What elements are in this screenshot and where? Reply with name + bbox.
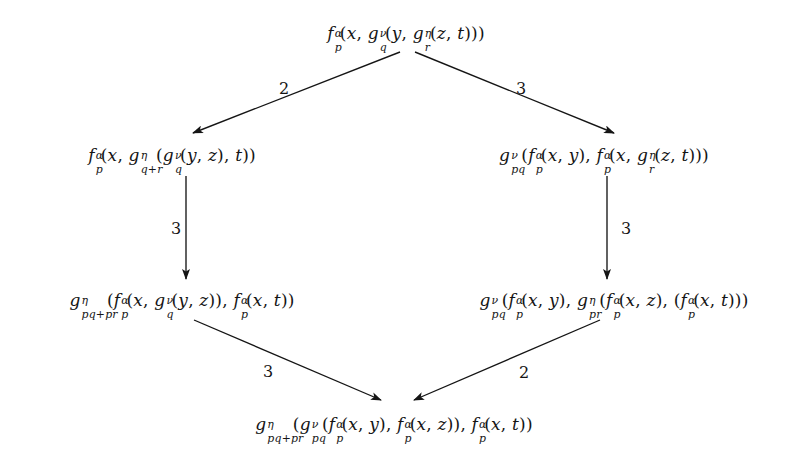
edge-label-left-vertical: 3 xyxy=(171,219,181,238)
node-bottom-right: gνpq(fαp(x, y), gηpr(fαp(x, z), (fαp(x, … xyxy=(479,291,748,310)
node-bottom-left: gηpq+pr(fαp(x, gνq(y, z)), fαp(x, t)) xyxy=(69,291,294,310)
edge-label-top-left: 2 xyxy=(279,79,289,98)
edge-bottom-right-to-bottom xyxy=(414,320,600,400)
node-top: fαp(x, gνq(y, gηr(z, t))) xyxy=(327,24,484,43)
edge-top-to-middle-left xyxy=(193,52,400,133)
diagram-edges xyxy=(0,0,811,458)
node-middle-left: fαp(x, gηq+r(gνq(y, z), t)) xyxy=(88,146,256,165)
edge-label-right-vertical: 3 xyxy=(621,219,631,238)
edge-label-bottom-left: 3 xyxy=(263,362,273,381)
diagram-canvas: fαp(x, gνq(y, gηr(z, t))) fαp(x, gηq+r(g… xyxy=(0,0,811,458)
edge-label-bottom-right: 2 xyxy=(519,363,529,382)
edge-label-top-right: 3 xyxy=(516,79,526,98)
edge-bottom-left-to-bottom xyxy=(194,320,381,400)
node-middle-right: gνpq(fαp(x, y), fαp(x, gηr(z, t))) xyxy=(499,146,709,165)
edge-top-to-middle-right xyxy=(415,52,614,133)
node-bottom: gηpq+pr(gνpq(fαp(x, y), fαp(x, z)), fαp(… xyxy=(255,415,533,434)
